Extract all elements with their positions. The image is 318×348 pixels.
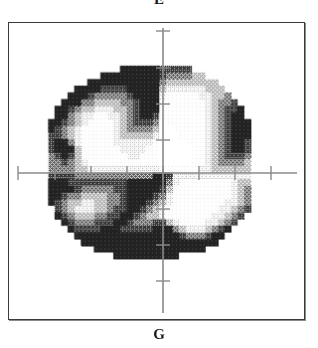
figure-root: E G xyxy=(0,0,318,348)
plot-frame xyxy=(8,22,305,320)
figure-top-label: E xyxy=(0,0,318,7)
visual-field-grayscale-plot xyxy=(9,23,304,319)
figure-bottom-label: G xyxy=(0,326,318,342)
